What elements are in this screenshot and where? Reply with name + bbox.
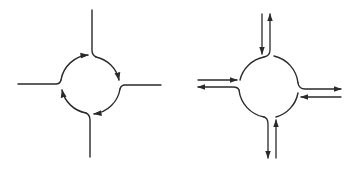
left-ring-arc-nw [61, 55, 88, 80]
diagram-stage [0, 0, 356, 169]
right-ring-arc-nw [240, 57, 264, 80]
left-ring-arc-se [94, 89, 120, 114]
left-ring-arc-ne [96, 57, 119, 80]
right-roundabout [198, 14, 341, 158]
left-roundabout [18, 10, 161, 157]
left-south-arm [86, 113, 90, 157]
right-ring-arc-sw [239, 90, 264, 117]
right-east-out-arrow [298, 83, 341, 89]
left-east-arm [120, 85, 161, 89]
right-north-out-arrow [264, 14, 270, 57]
right-ring-arc-ne [274, 56, 298, 83]
right-ring-arc-se [276, 93, 298, 117]
left-west-arm [18, 80, 61, 84]
right-south-out-arrow [264, 117, 268, 158]
roundabout-diagrams [0, 0, 356, 169]
left-north-arm [92, 10, 96, 57]
left-ring-arc-sw [62, 90, 86, 113]
right-west-out-arrow [198, 87, 239, 90]
